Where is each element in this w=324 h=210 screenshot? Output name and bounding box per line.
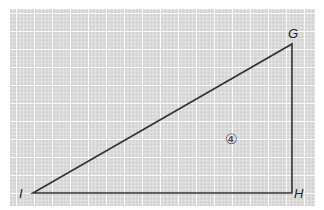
vertex-label-h: H (294, 187, 303, 200)
triangle-figure (0, 0, 324, 210)
vertex-label-g: G (288, 27, 298, 40)
triangle-GHI (33, 44, 292, 193)
region-number-marker: ④ (225, 132, 238, 146)
vertex-label-i: I (19, 187, 23, 200)
